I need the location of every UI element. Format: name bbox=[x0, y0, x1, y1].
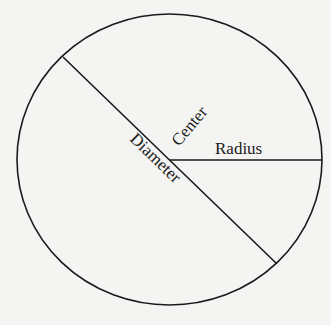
radius-label: Radius bbox=[215, 139, 262, 158]
circle-diagram: Radius Center Diameter bbox=[0, 0, 331, 325]
center-label: Center bbox=[168, 102, 212, 149]
